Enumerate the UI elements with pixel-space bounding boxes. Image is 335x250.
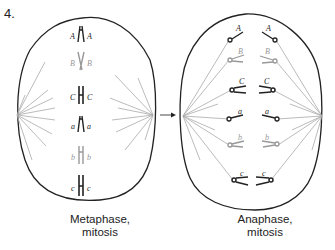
metaphase-caption-line2: mitosis: [50, 226, 150, 239]
metaphase-caption-line1: Metaphase,: [50, 213, 150, 226]
label-b-right: b: [265, 133, 269, 142]
label-B-left: B: [238, 47, 243, 56]
spindle-fibers-anaphase-left-pole: [183, 40, 233, 180]
label-B-right: B: [265, 47, 270, 56]
right-arrow-icon: [160, 113, 176, 118]
label-C-left: C: [70, 93, 76, 102]
metaphase-cell: A A B B C C a a b b c c: [17, 17, 156, 200]
label-C-left: C: [239, 77, 245, 86]
label-C-right: C: [87, 93, 93, 102]
label-b-left: b: [71, 153, 75, 162]
label-A-right: A: [265, 24, 271, 33]
anaphase-cell: A A B B C C a a b b c c: [180, 14, 322, 210]
anaphase-caption-line2: mitosis: [215, 226, 315, 239]
label-B-right: B: [87, 59, 92, 68]
label-a-left: a: [71, 122, 75, 131]
label-c-right: c: [87, 184, 91, 193]
label-c-right: c: [262, 169, 266, 178]
label-c-left: c: [71, 184, 75, 193]
label-a-left: a: [238, 107, 242, 116]
metaphase-caption: Metaphase, mitosis: [50, 213, 150, 239]
spindle-fibers-right-pole: [110, 75, 153, 150]
anaphase-caption: Anaphase, mitosis: [215, 213, 315, 239]
label-A-left: A: [235, 24, 241, 33]
label-b-left: b: [238, 133, 242, 142]
label-a-right: a: [265, 107, 269, 116]
label-c-left: c: [240, 169, 244, 178]
label-B-left: B: [70, 59, 75, 68]
label-A-right: A: [86, 32, 92, 41]
label-a-right: a: [87, 122, 91, 131]
label-C-right: C: [264, 77, 270, 86]
spindle-fibers-left-pole: [17, 62, 55, 160]
metaphase-chromosomes: [78, 26, 84, 196]
label-b-right: b: [87, 153, 91, 162]
anaphase-caption-line1: Anaphase,: [215, 213, 315, 226]
label-A-left: A: [69, 32, 75, 41]
